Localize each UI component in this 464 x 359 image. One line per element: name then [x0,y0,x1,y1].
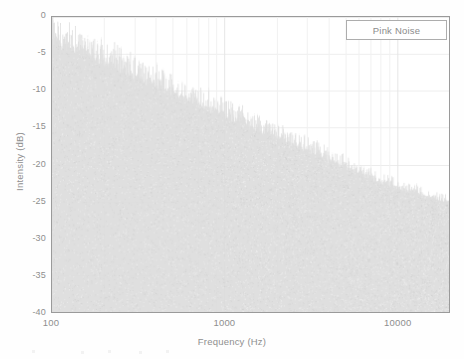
x-tick-10000: 10000 [368,318,428,328]
legend: Pink Noise [346,20,447,40]
y-tick--10: -10 [8,85,46,94]
scan-artifact [81,351,84,354]
y-tick--40: -40 [8,308,46,317]
x-axis-title: Frequency (Hz) [0,336,464,347]
plot-area: Pink Noise [51,16,450,313]
pink-noise-trace [52,17,449,312]
y-tick-0: 0 [8,11,46,20]
y-tick--30: -30 [8,234,46,243]
figure: 0-5-10-15-20-25-30-35-40 Pink Noise 1001… [0,0,464,359]
x-tick-100: 100 [21,318,81,328]
x-tick-1000: 1000 [194,318,254,328]
scan-artifact [166,350,169,353]
legend-entry-pink-noise: Pink Noise [347,21,446,39]
scan-artifact [108,350,111,353]
y-axis-title: Intensity (dB) [14,102,25,222]
y-tick--35: -35 [8,271,46,280]
scan-artifact [139,351,142,354]
y-tick--5: -5 [8,48,46,57]
scan-artifact [32,350,35,353]
